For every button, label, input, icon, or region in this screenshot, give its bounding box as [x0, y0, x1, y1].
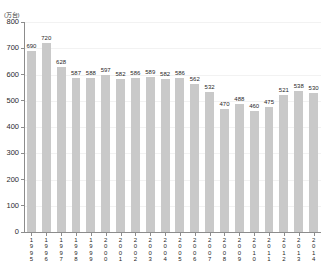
bar-value-label: 532 [198, 84, 222, 91]
x-tick-mark [76, 233, 77, 236]
y-tick-label: 300 [6, 148, 19, 157]
x-axis-line [24, 232, 321, 233]
bar [57, 67, 66, 232]
x-axis-label: 2001 [116, 237, 126, 263]
bar [294, 91, 303, 232]
x-axis-label: 2003 [145, 237, 155, 263]
x-axis-label: 2009 [234, 237, 244, 263]
x-axis-label: 1998 [71, 237, 81, 263]
x-tick-mark [284, 233, 285, 236]
x-tick-mark [31, 233, 32, 236]
x-tick-mark [254, 233, 255, 236]
bar [205, 92, 214, 232]
bar [116, 79, 125, 232]
bar [131, 78, 140, 232]
bar [220, 109, 229, 232]
bar-value-label: 475 [257, 99, 281, 106]
bar [42, 43, 51, 232]
bar [279, 95, 288, 232]
x-axis-label: 2012 [279, 237, 289, 263]
x-axis-label: 2002 [130, 237, 140, 263]
y-tick-label: 400 [6, 122, 19, 131]
x-tick-mark [210, 233, 211, 236]
y-tick-label: 700 [6, 43, 19, 52]
bar-value-label: 720 [34, 35, 58, 42]
x-axis-label: 2014 [309, 237, 319, 263]
bar [175, 78, 184, 232]
x-axis-label: 2006 [190, 237, 200, 263]
x-axis-label: 1996 [41, 237, 51, 263]
x-axis-label: 1999 [86, 237, 96, 263]
y-tick-label: 500 [6, 96, 19, 105]
x-tick-mark [314, 233, 315, 236]
y-tick-label: 100 [6, 201, 19, 210]
bar [27, 51, 36, 232]
bar [72, 78, 81, 232]
x-tick-mark [299, 233, 300, 236]
bar [265, 107, 274, 232]
bar [309, 93, 318, 232]
x-tick-mark [180, 233, 181, 236]
x-tick-mark [61, 233, 62, 236]
x-axis-label: 2005 [175, 237, 185, 263]
bar [190, 84, 199, 232]
bar [250, 111, 259, 232]
bar-value-label: 530 [302, 85, 325, 92]
x-tick-mark [224, 233, 225, 236]
y-tick-label: 0 [15, 227, 19, 236]
bar [101, 75, 110, 232]
plot-area [24, 22, 321, 232]
y-tick-label: 200 [6, 175, 19, 184]
x-axis-label: 2004 [160, 237, 170, 263]
bar-value-label: 690 [19, 43, 43, 50]
y-tick-label: 600 [6, 70, 19, 79]
x-axis-label: 1997 [56, 237, 66, 263]
x-tick-mark [106, 233, 107, 236]
bar [86, 78, 95, 232]
x-tick-mark [135, 233, 136, 236]
bar-value-label: 562 [183, 76, 207, 83]
x-axis-label: 2007 [205, 237, 215, 263]
x-tick-mark [269, 233, 270, 236]
x-tick-mark [46, 233, 47, 236]
y-tick-label: 800 [6, 17, 19, 26]
x-axis-label: 2013 [294, 237, 304, 263]
bar-value-label: 488 [227, 96, 251, 103]
bar-value-label: 628 [49, 59, 73, 66]
x-axis-label: 2010 [249, 237, 259, 263]
x-axis-label: 2011 [264, 237, 274, 263]
bar [235, 104, 244, 232]
x-tick-mark [165, 233, 166, 236]
x-axis-label: 2000 [101, 237, 111, 263]
x-tick-mark [121, 233, 122, 236]
x-axis-label: 2008 [219, 237, 229, 263]
x-tick-mark [91, 233, 92, 236]
x-axis-label: 1995 [26, 237, 36, 263]
x-tick-mark [150, 233, 151, 236]
bar [161, 79, 170, 232]
bar-chart: (万台) 8007006005004003002001000 199519961… [0, 0, 325, 270]
bar [146, 77, 155, 232]
x-tick-mark [195, 233, 196, 236]
x-tick-mark [239, 233, 240, 236]
